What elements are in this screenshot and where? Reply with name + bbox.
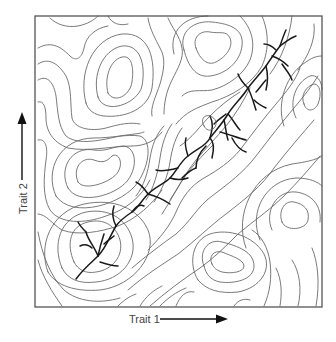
y-axis-label: Trait 2	[17, 183, 29, 214]
fitness-landscape-diagram: Trait 2 Trait 1	[0, 0, 336, 342]
y-axis-arrow	[18, 112, 27, 180]
x-axis-arrow	[160, 315, 228, 324]
x-axis-label: Trait 1	[129, 313, 160, 325]
